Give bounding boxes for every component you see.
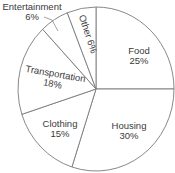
slice-value-entertainment: 6% bbox=[25, 11, 39, 22]
slice-value-food: 25% bbox=[129, 55, 149, 66]
slice-value-clothing: 15% bbox=[50, 128, 70, 139]
pie-svg: Food 25% Housing 30% Clothing 15% Transp… bbox=[0, 0, 175, 173]
slice-value-housing: 30% bbox=[119, 130, 139, 141]
pie-chart: Food 25% Housing 30% Clothing 15% Transp… bbox=[0, 0, 175, 173]
pie-slices bbox=[18, 7, 174, 171]
